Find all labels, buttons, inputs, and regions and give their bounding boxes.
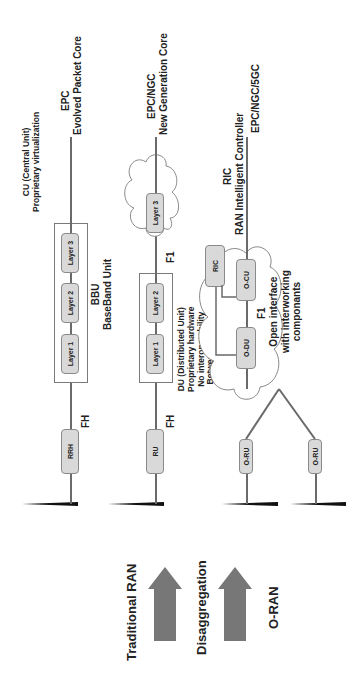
link-line: [246, 137, 248, 259]
link-line: [315, 474, 317, 504]
ric-subtitle: RAN Intelligent Controller: [234, 113, 246, 235]
stage-label-oran: O-RAN: [267, 586, 282, 629]
cu-subtitle: Proprietary virtualization: [32, 112, 42, 212]
antenna-icon: [220, 498, 280, 510]
ru-box: RU: [146, 429, 164, 474]
core-subtitle: New Generation Core: [158, 33, 170, 135]
antenna-icon: [288, 498, 348, 510]
layer-2-box: Layer 2: [61, 283, 79, 323]
core-label-epc-ngc: EPC/NGC New Generation Core: [146, 33, 169, 135]
oran-evolution-diagram: Traditional RAN Disaggregation O-RAN RRH…: [0, 0, 358, 675]
fh-line: [155, 383, 157, 429]
link-line: [155, 323, 157, 334]
antenna-icon: [106, 498, 166, 510]
open-line: with interworking: [280, 270, 292, 353]
ric-title: RIC: [222, 113, 234, 235]
core-subtitle: Evolved Packet Core: [72, 36, 84, 135]
open-line: componants: [291, 270, 303, 353]
f1-label: F1: [256, 307, 268, 319]
core-title: EPC: [60, 36, 72, 135]
link-line: [70, 137, 72, 233]
ric-connector-lines: [214, 277, 244, 357]
oru-box-1: O-RU: [239, 439, 253, 474]
layer-3-box: Layer 3: [61, 233, 79, 273]
link-line: [70, 273, 72, 283]
core-title: EPC/NGC: [146, 33, 158, 135]
bbu-label: BBU BaseBand Unit: [90, 259, 113, 330]
layer-2-box: Layer 2: [146, 283, 164, 323]
cu-label: CU (Central Unit) Proprietary virtualiza…: [22, 112, 42, 212]
arrow-icon: [218, 561, 258, 641]
f1-line: [155, 233, 157, 283]
link-line: [246, 474, 248, 504]
open-line: Open interface: [268, 270, 280, 353]
fh-line: [70, 383, 72, 429]
oru-box-2: O-RU: [308, 439, 322, 474]
layer-1-box: Layer 1: [61, 334, 79, 374]
arrow-icon: [148, 561, 188, 641]
fh-label: FH: [80, 415, 92, 428]
stage-label-traditional-ran: Traditional RAN: [125, 563, 140, 661]
bbu-subtitle: BaseBand Unit: [102, 259, 114, 330]
link-line: [246, 369, 248, 389]
stage-label-disaggregation: Disaggregation: [195, 560, 210, 655]
layer-1-box: Layer 1: [146, 334, 164, 374]
f1-line: [246, 301, 248, 327]
link-line: [70, 474, 72, 504]
link-line: [155, 137, 157, 193]
rrh-box: RRH: [61, 429, 79, 474]
core-label-epc-ngc-5gc: EPC/NGC/5GC: [250, 64, 262, 133]
bbu-title: BBU: [90, 259, 102, 330]
link-line: [155, 474, 157, 504]
open-interface-label: Open interface with interworking compona…: [268, 270, 303, 353]
core-label-epc: EPC Evolved Packet Core: [60, 36, 83, 135]
ric-label: RIC RAN Intelligent Controller: [222, 113, 245, 235]
layer-3-box: Layer 3: [146, 193, 164, 233]
f1-label: F1: [165, 251, 177, 263]
fh-label: FH: [165, 415, 177, 428]
link-line: [70, 323, 72, 334]
